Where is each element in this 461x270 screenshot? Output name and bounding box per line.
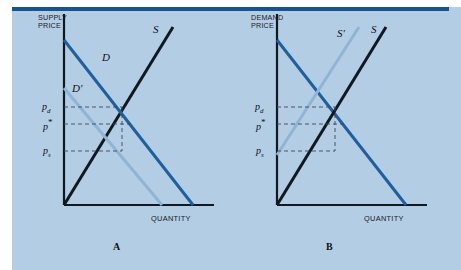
panel-a-pstar-label: p* <box>43 118 53 132</box>
panel-a-letter: A <box>113 241 120 252</box>
panel-b-y-axis-caption: DEMAND PRICE <box>251 14 283 31</box>
panel-a-pd-label: pd <box>42 101 51 115</box>
panel-b-ps-label: ps <box>256 145 264 159</box>
panel-a-y-axis-caption: SUPPLY PRICE <box>38 14 67 31</box>
panel-b-supply-shifted-label: S′ <box>337 27 345 39</box>
panel-a-demand-label: D <box>102 51 110 63</box>
panel-b-letter: B <box>326 241 333 252</box>
panel-a-supply-label: S <box>153 23 159 35</box>
panel-a-demand-shifted-label: D′ <box>72 82 82 94</box>
panel-b-pd-label: pd <box>255 101 264 115</box>
panel-b-supply-label: S <box>371 23 377 35</box>
panel-a-x-axis-caption: QUANTITY <box>151 214 191 223</box>
panel-b-supply-curve <box>277 27 386 205</box>
panel-a-demand-curve <box>64 40 193 205</box>
panel-a-supply-curve <box>64 27 173 205</box>
panel-a-ps-label: ps <box>43 145 51 159</box>
panel-a: SUPPLY PRICE QUANTITY S D D′ pd p* ps A <box>18 0 228 263</box>
panel-b: DEMAND PRICE QUANTITY S S′ pd p* ps B <box>231 0 441 263</box>
figure-page: SUPPLY PRICE QUANTITY S D D′ pd p* ps A <box>0 0 461 270</box>
panel-b-pstar-label: p* <box>256 118 266 132</box>
panel-b-x-axis-caption: QUANTITY <box>364 214 404 223</box>
